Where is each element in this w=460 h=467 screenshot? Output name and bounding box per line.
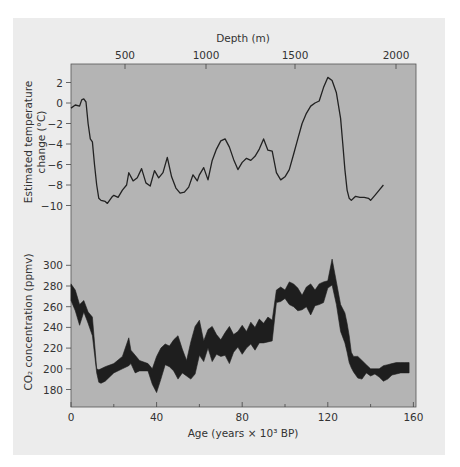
ice-core-chart: 500100015002000 04080120160 20−2−4−6−8−1…: [0, 0, 460, 467]
co2-axis-title: CO₂ concentration (ppmv): [22, 253, 34, 390]
temperature-tick-label: −10: [41, 200, 63, 212]
age-axis-title: Age (years × 10³ BP): [188, 427, 299, 439]
co2-tick-label: 280: [43, 280, 63, 292]
temperature-tick-label: 2: [56, 77, 63, 89]
depth-tick-label: 1000: [193, 49, 220, 61]
temperature-axis-title-line1: Estimated temperature: [22, 81, 34, 203]
age-tick-label: 160: [403, 411, 423, 423]
depth-tick-label: 500: [115, 49, 135, 61]
age-tick-label: 80: [236, 411, 249, 423]
age-tick-label: 120: [318, 411, 338, 423]
co2-axis: 300280260240220200180: [43, 259, 71, 395]
co2-tick-label: 200: [43, 363, 63, 375]
co2-tick-label: 260: [43, 301, 63, 313]
depth-tick-label: 2000: [383, 49, 410, 61]
temperature-axis-title-line2: change (°C): [35, 111, 47, 174]
co2-tick-label: 220: [43, 342, 63, 354]
co2-tick-label: 180: [43, 384, 63, 396]
temperature-tick-label: −8: [48, 179, 63, 191]
co2-tick-label: 300: [43, 259, 63, 271]
temperature-tick-label: −2: [48, 118, 63, 130]
temperature-tick-label: 0: [56, 97, 63, 109]
age-tick-label: 0: [68, 411, 75, 423]
co2-tick-label: 240: [43, 321, 63, 333]
age-tick-label: 40: [150, 411, 163, 423]
temperature-tick-label: −4: [48, 138, 64, 150]
temperature-tick-label: −6: [48, 159, 64, 171]
depth-tick-label: 1500: [282, 49, 309, 61]
depth-axis-title: Depth (m): [216, 32, 270, 44]
